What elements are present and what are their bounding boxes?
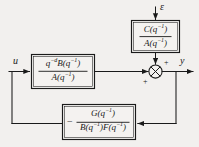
output-signal-label: y [180, 56, 184, 66]
disturbance-filter-numerator: C(q−1) [132, 25, 180, 35]
forward-path-fraction: q−dB(q−1) A(q−1) [32, 59, 95, 82]
block-diagram-canvas: ε u y + + C(q−1) A(q−1) q−dB(q−1) A(q−1)… [0, 0, 199, 147]
forward-path-denominator: A(q−1) [32, 69, 95, 82]
feedback-leading-minus-sign: − [67, 116, 73, 127]
forward-path-numerator: q−dB(q−1) [32, 59, 95, 69]
feedback-fraction: G(q−1) B(q−1)F(q−1) [74, 109, 132, 132]
feedback-denominator: B(q−1)F(q−1) [74, 119, 132, 132]
feedback-numerator: G(q−1) [74, 109, 132, 119]
disturbance-signal-label: ε [160, 2, 164, 12]
disturbance-filter-fraction: C(q−1) A(q−1) [132, 25, 180, 48]
sum-sign-bottom: + [143, 78, 148, 86]
sum-sign-top: + [164, 59, 169, 67]
summing-junction-shape [149, 65, 162, 78]
disturbance-filter-denominator: A(q−1) [132, 35, 180, 48]
input-signal-label: u [13, 56, 18, 66]
